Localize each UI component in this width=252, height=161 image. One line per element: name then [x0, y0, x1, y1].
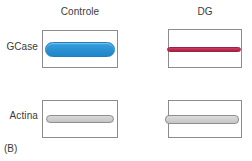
- panel-caption: (B): [4, 143, 17, 155]
- column-header-controle: Controle: [42, 6, 118, 18]
- row-label-actina: Actina: [0, 110, 38, 122]
- band-actina-controle: [46, 115, 114, 123]
- blot-box-gcase-controle: [42, 30, 118, 68]
- blot-box-gcase-dg: [168, 29, 242, 68]
- western-blot-figure: Controle DG GCase Actina (B): [0, 0, 252, 161]
- blot-box-actina-dg: [168, 100, 242, 138]
- column-header-dg: DG: [168, 6, 242, 18]
- blot-box-actina-controle: [42, 100, 118, 138]
- band-gcase-controle: [45, 42, 115, 57]
- row-label-gcase: GCase: [0, 41, 38, 53]
- band-gcase-dg: [167, 47, 241, 52]
- band-actina-dg: [165, 115, 239, 124]
